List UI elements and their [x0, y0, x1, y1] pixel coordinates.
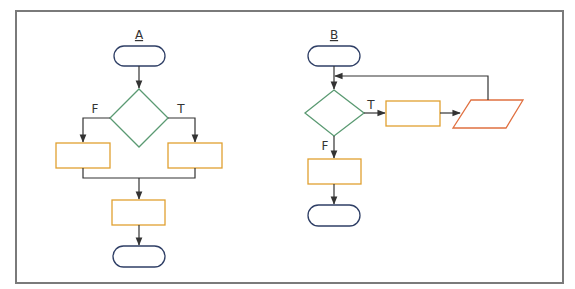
- flowchart-a-title: A: [135, 28, 144, 42]
- terminal-start-a: [114, 46, 165, 66]
- flowchart-b: B T F: [305, 28, 523, 226]
- label-b-false: F: [322, 139, 329, 153]
- terminal-end-a: [113, 246, 165, 267]
- flowchart-canvas: A F T B T F: [0, 0, 575, 289]
- connector-a-true: [168, 118, 195, 142]
- terminal-end-b: [308, 205, 360, 226]
- process-a-true: [168, 143, 222, 168]
- label-b-true: T: [366, 98, 375, 112]
- connector-a-false: [83, 118, 110, 142]
- connector-b-loop-back: [335, 76, 488, 100]
- terminal-start-b: [308, 46, 360, 66]
- label-a-true: T: [176, 102, 185, 116]
- flowchart-a: A F T: [56, 28, 222, 267]
- label-a-false: F: [92, 102, 99, 116]
- process-a-merge: [112, 200, 165, 225]
- io-b-parallelogram: [453, 100, 523, 128]
- decision-b: [305, 90, 364, 136]
- flowchart-b-title: B: [330, 28, 338, 42]
- process-b-loop-body: [386, 101, 440, 126]
- decision-a: [110, 89, 168, 147]
- process-b-exit: [308, 159, 361, 184]
- process-a-false: [56, 143, 110, 168]
- connector-a-merge: [83, 168, 195, 178]
